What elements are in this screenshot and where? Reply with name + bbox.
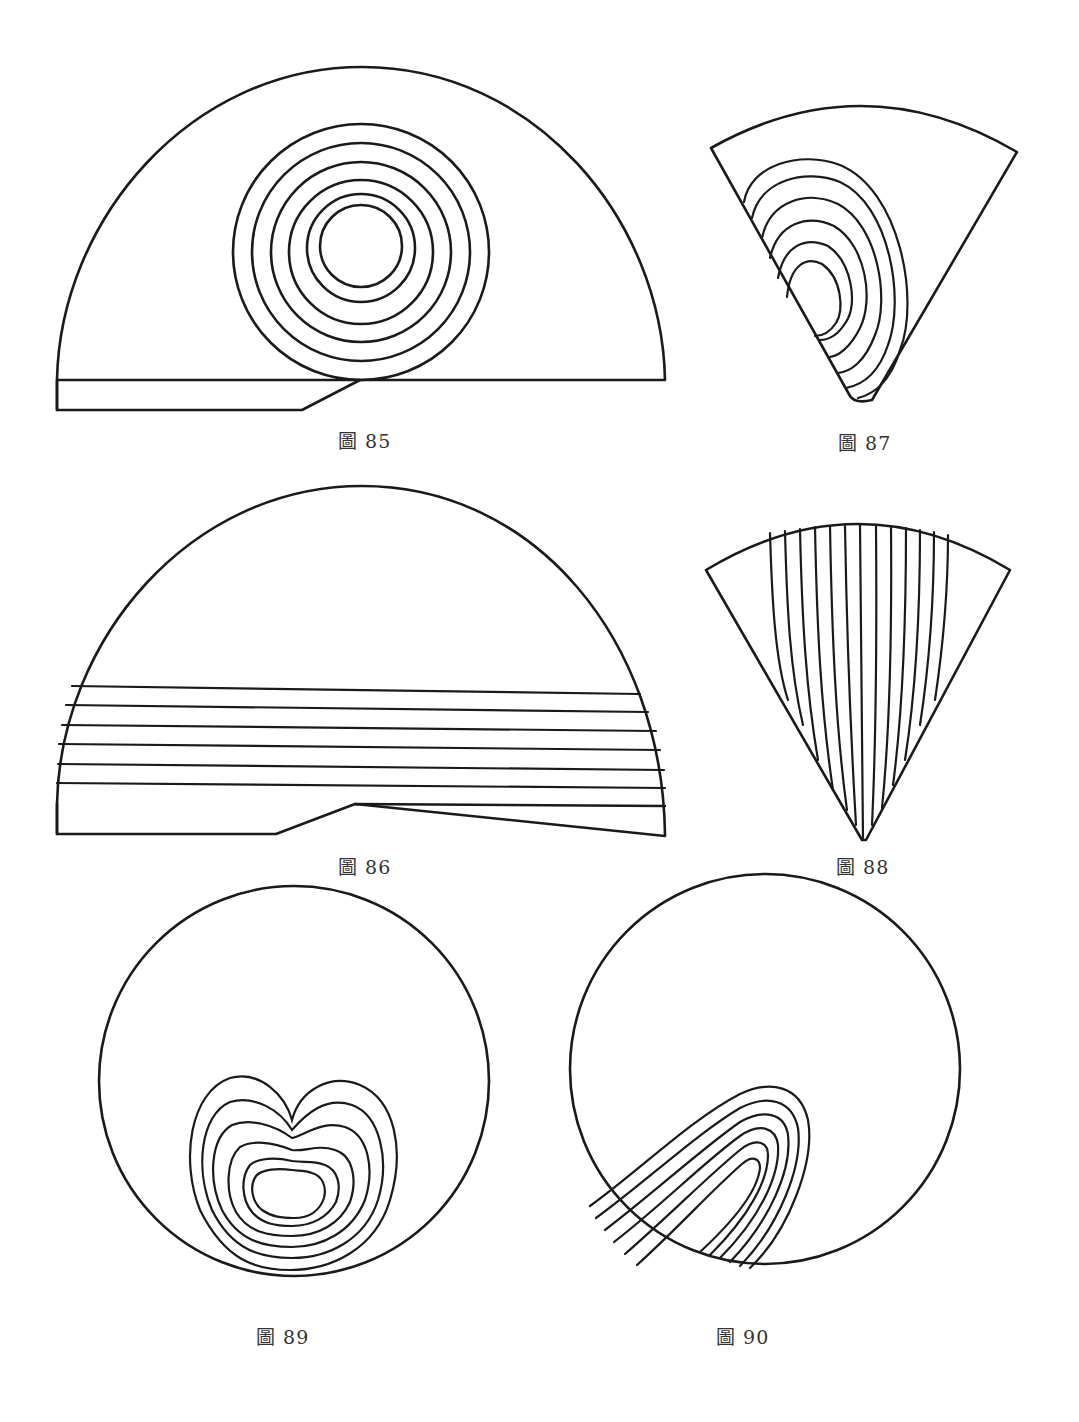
fig86-horizontal-lines <box>57 686 665 788</box>
caption-fig89: 圖 89 <box>256 1322 309 1349</box>
fig90-nested-u-curves <box>590 1087 809 1268</box>
figure-88 <box>706 524 1010 840</box>
fig88-fan-outline <box>706 524 1010 840</box>
fig85-base-plate <box>57 380 360 410</box>
diagram-canvas <box>0 0 1079 1422</box>
caption-fig87: 圖 87 <box>838 428 891 455</box>
caption-fig85: 圖 85 <box>338 426 391 453</box>
fig89-nested-heart-curves <box>190 1076 397 1270</box>
fig90-circle-outline <box>570 874 960 1264</box>
caption-fig86: 圖 86 <box>338 852 391 879</box>
fig88-vertical-lines <box>770 525 948 838</box>
fig85-concentric-rings <box>233 124 489 380</box>
fig86-base-plate <box>57 804 665 834</box>
figure-87 <box>711 106 1017 401</box>
fig85-outline <box>57 67 665 410</box>
figure-89 <box>99 886 489 1276</box>
figure-85 <box>57 67 665 410</box>
figure-90 <box>570 874 960 1268</box>
fig87-nested-curves <box>744 159 908 398</box>
caption-fig88: 圖 88 <box>836 852 889 879</box>
caption-fig90: 圖 90 <box>716 1322 769 1349</box>
figure-86 <box>57 486 665 836</box>
